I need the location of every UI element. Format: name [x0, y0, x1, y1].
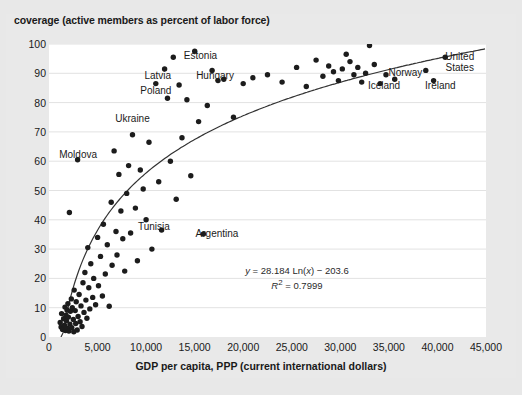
data-point: [304, 84, 309, 89]
y-tick-label: 80: [4, 97, 46, 109]
x-tick-label: 0: [46, 341, 52, 353]
data-point: [82, 270, 87, 275]
data-point: [111, 148, 116, 153]
point-label: Moldova: [59, 150, 97, 162]
data-point: [344, 52, 349, 57]
data-point: [84, 316, 89, 321]
data-point: [205, 103, 210, 108]
data-point: [320, 74, 325, 79]
data-point: [118, 208, 123, 213]
data-point: [340, 66, 345, 71]
data-point: [93, 302, 98, 307]
point-label: Estonia: [184, 50, 217, 62]
data-point: [67, 210, 72, 215]
data-point: [326, 63, 331, 68]
data-point: [107, 304, 112, 309]
data-point: [372, 62, 377, 67]
data-point: [75, 327, 80, 332]
y-tick-label: 60: [4, 155, 46, 167]
y-tick-label: 30: [4, 243, 46, 255]
data-point: [76, 292, 81, 297]
data-point: [98, 254, 103, 259]
data-point: [135, 258, 140, 263]
y-tick-label: 100: [4, 38, 46, 50]
data-point: [138, 167, 143, 172]
data-point: [336, 78, 341, 83]
x-tick-label: 15,000: [179, 341, 211, 353]
y-tick-label: 70: [4, 126, 46, 138]
data-point: [105, 242, 110, 247]
data-point: [74, 299, 79, 304]
data-point: [122, 268, 127, 273]
data-point: [359, 79, 364, 84]
data-point: [78, 303, 83, 308]
data-point: [81, 310, 86, 315]
point-label: Tunisia: [138, 221, 170, 233]
point-label: Norway: [388, 68, 422, 80]
chart-title: coverage (active members as percent of l…: [14, 14, 270, 26]
data-point: [75, 314, 80, 319]
y-tick-label: 40: [4, 214, 46, 226]
data-point: [126, 163, 131, 168]
point-label: Ukraine: [115, 113, 149, 125]
data-point: [279, 79, 284, 84]
data-point: [367, 44, 372, 48]
data-point: [363, 71, 368, 76]
x-tick-label: 5,000: [84, 341, 110, 353]
x-axis: 05,00010,00015,00020,00025,00030,00035,0…: [49, 341, 486, 357]
plot-area: [49, 44, 486, 337]
data-point: [88, 261, 93, 266]
data-point: [250, 75, 255, 80]
data-point: [100, 293, 105, 298]
point-label: Argentina: [196, 229, 239, 241]
data-point: [176, 82, 181, 87]
y-tick-label: 10: [4, 302, 46, 314]
y-tick-label: 90: [4, 67, 46, 79]
data-point: [347, 59, 352, 64]
data-point: [130, 132, 135, 137]
data-point: [128, 230, 133, 235]
data-point: [331, 69, 336, 74]
point-label: Poland: [140, 85, 171, 97]
data-point: [66, 314, 71, 319]
x-tick-label: 40,000: [421, 341, 453, 353]
data-point: [69, 296, 74, 301]
data-point: [133, 205, 138, 210]
data-point: [65, 301, 70, 306]
x-tick-label: 25,000: [276, 341, 308, 353]
data-point: [95, 235, 100, 240]
data-point: [171, 55, 176, 60]
data-point: [174, 197, 179, 202]
data-point: [116, 172, 121, 177]
x-tick-label: 45,000: [470, 341, 502, 353]
data-point: [313, 57, 318, 62]
data-point: [120, 236, 125, 241]
data-point: [265, 72, 270, 77]
data-point: [241, 81, 246, 86]
data-point: [168, 159, 173, 164]
data-point: [72, 287, 77, 292]
data-point: [77, 319, 82, 324]
data-point: [124, 191, 129, 196]
data-point: [196, 119, 201, 124]
data-point: [114, 252, 119, 257]
chart-figure: coverage (active members as percent of l…: [0, 0, 522, 395]
data-point: [146, 140, 151, 145]
trendline-equation-annotation: y = 28.184 Ln(x) − 203.6 R2 = 0.7999: [245, 265, 349, 292]
y-tick-label: 50: [4, 185, 46, 197]
data-point: [149, 246, 154, 251]
x-tick-label: 20,000: [227, 341, 259, 353]
data-point: [109, 200, 114, 205]
x-tick-label: 30,000: [324, 341, 356, 353]
data-point: [156, 179, 161, 184]
point-label: Iceland: [368, 81, 400, 93]
data-point: [351, 72, 356, 77]
data-point: [85, 245, 90, 250]
data-point: [355, 65, 360, 70]
point-label: UnitedStates: [445, 50, 474, 73]
x-axis-label: GDP per capita, PPP (current internation…: [0, 360, 522, 372]
data-point: [73, 308, 78, 313]
equation-line: y = 28.184 Ln(x) − 203.6: [245, 265, 349, 277]
data-point: [90, 295, 95, 300]
r-squared-line: R2 = 0.7999: [245, 277, 349, 292]
